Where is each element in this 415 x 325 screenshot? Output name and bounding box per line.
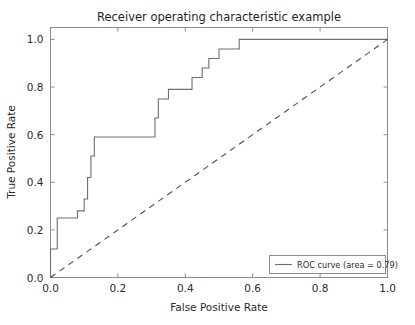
x-axis-label: False Positive Rate bbox=[170, 301, 268, 313]
y-tick-label: 0.8 bbox=[27, 81, 44, 93]
roc-chart-figure: Receiver operating characteristic exampl… bbox=[0, 0, 415, 325]
y-axis-label: True Positive Rate bbox=[5, 105, 17, 200]
legend-label: ROC curve (area = 0.79) bbox=[297, 260, 398, 270]
y-tick-label: 0.0 bbox=[27, 272, 44, 284]
x-tick-label: 0.4 bbox=[177, 282, 194, 294]
y-tick-label: 0.6 bbox=[27, 129, 44, 141]
x-tick-label: 0.8 bbox=[312, 282, 329, 294]
y-tick-label: 1.0 bbox=[27, 33, 44, 45]
x-tick-label: 0.0 bbox=[42, 282, 59, 294]
x-tick-label: 0.6 bbox=[244, 282, 261, 294]
chart-title: Receiver operating characteristic exampl… bbox=[97, 10, 341, 24]
x-tick-label: 0.2 bbox=[110, 282, 127, 294]
roc-chart-canvas: Receiver operating characteristic exampl… bbox=[0, 0, 415, 325]
y-tick-label: 0.2 bbox=[27, 224, 44, 236]
y-tick-label: 0.4 bbox=[27, 176, 44, 188]
x-tick-label: 1.0 bbox=[379, 282, 396, 294]
chart-legend[interactable]: ROC curve (area = 0.79) bbox=[270, 256, 398, 274]
figure-background bbox=[0, 0, 415, 325]
